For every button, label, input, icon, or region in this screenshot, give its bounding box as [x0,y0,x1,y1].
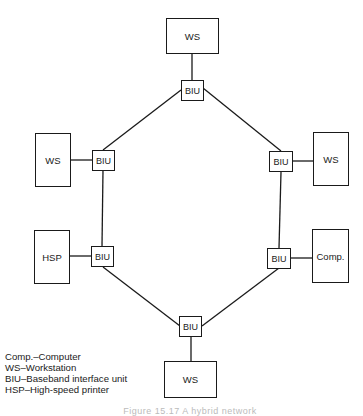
computer: Comp. [312,229,349,283]
node-label: HSP [42,252,62,263]
figure-caption: Figure 15.17 A hybrid network [90,406,290,416]
legend-item: HSP–High-speed printer [5,384,127,395]
workstation-left: WS [35,133,71,187]
high-speed-printer: HSP [34,230,70,284]
node-label: BIU [185,86,200,96]
node-label: BIU [96,156,111,166]
legend-item: WS–Workstation [5,362,127,373]
node-label: WS [323,154,338,165]
workstation-top: WS [166,18,219,54]
workstation-bottom: WS [164,361,217,398]
node-label: BIU [271,254,286,264]
node-label: BIU [273,157,288,167]
legend: Comp.–Computer WS–Workstation BIU–Baseba… [5,351,127,395]
workstation-right: WS [313,132,349,186]
node-label: WS [183,374,198,385]
node-label: BIU [183,322,198,332]
biu-left-upper: BIU [92,150,115,171]
biu-left-lower: BIU [91,246,114,267]
biu-bottom: BIU [179,316,202,337]
biu-top: BIU [181,80,204,101]
node-label: WS [45,155,60,166]
node-label: Comp. [317,251,345,262]
biu-right-lower: BIU [267,248,291,269]
node-label: WS [185,31,200,42]
biu-right-upper: BIU [269,151,293,172]
legend-item: Comp.–Computer [5,351,127,362]
legend-item: BIU–Baseband interface unit [5,373,127,384]
node-label: BIU [95,252,110,262]
